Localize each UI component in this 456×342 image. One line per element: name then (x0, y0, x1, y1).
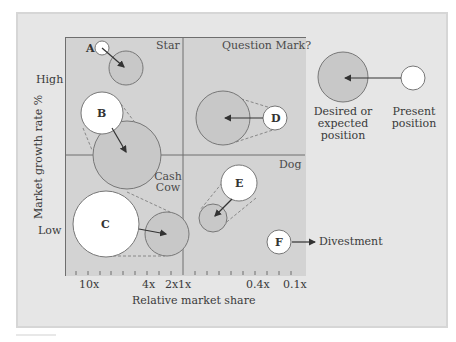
business-b (81, 92, 161, 189)
business-c (73, 191, 189, 257)
quadrant-label-question-mark: Question Mark? (222, 40, 311, 52)
label-f: F (275, 236, 283, 249)
caption-remnant (16, 334, 56, 336)
legend-present-line2: position (388, 118, 440, 130)
y-axis-low-label: Low (38, 225, 61, 237)
business-a (95, 41, 143, 85)
desired-position-circle (109, 51, 143, 85)
label-e: E (235, 177, 243, 190)
x-tick-1x: 1x (178, 279, 191, 291)
label-c: C (101, 218, 110, 231)
y-axis-high-label: High (36, 74, 63, 86)
x-tick-4x: 4x (142, 279, 155, 291)
label-b: B (97, 107, 106, 120)
quadrant-label-star: Star (156, 40, 180, 52)
label-d: D (271, 112, 281, 125)
x-tick-2x: 2x (165, 279, 178, 291)
label-a: A (86, 42, 95, 55)
divestment-label: Divestment (319, 236, 383, 248)
x-tick-0-4x: 0.4x (246, 279, 270, 291)
y-axis-title: Market growth rate % (32, 95, 45, 219)
quadrant-label-dog: Dog (279, 159, 301, 171)
business-e (199, 165, 257, 232)
x-tick-0-1x: 0.1x (283, 279, 307, 291)
quadrant-label-cash-cow: Cash Cow (152, 171, 184, 193)
x-tick-10x: 10x (79, 279, 99, 291)
legend-present-label: Present position (388, 106, 440, 130)
desired-position-circle (145, 212, 189, 256)
legend-present-circle (401, 66, 425, 90)
legend-desired-label: Desired or expected position (313, 106, 373, 142)
legend (318, 52, 425, 102)
x-axis-title: Relative market share (132, 295, 255, 307)
legend-desired-circle (318, 52, 368, 102)
legend-desired-line3: position (313, 130, 373, 142)
